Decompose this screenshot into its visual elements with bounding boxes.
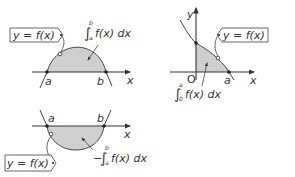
- shaded-area-origin: [196, 43, 229, 72]
- upper-limit: a: [179, 81, 183, 88]
- panel-negative-area: a b x y = f(x) − ∫ b a f(x) dx: [5, 110, 147, 171]
- leader-dot: [218, 34, 220, 36]
- leader-line: [215, 35, 218, 56]
- integrand: f(x) dx: [111, 152, 147, 165]
- lower-limit: a: [105, 159, 109, 166]
- point-y-intercept: [194, 41, 198, 45]
- upper-limit: b: [89, 19, 93, 26]
- x-axis-label: x: [249, 74, 257, 87]
- label-a: a: [45, 75, 52, 88]
- integrand: f(x) dx: [185, 88, 221, 101]
- curve-label: y = f(x): [6, 157, 49, 170]
- curve-point-marker: [58, 52, 62, 56]
- integrand: f(x) dx: [95, 27, 131, 40]
- curve-point-marker: [216, 56, 220, 60]
- origin-label: O: [187, 73, 196, 86]
- shaded-area-negative: [47, 126, 104, 150]
- point-b: [104, 70, 108, 74]
- curve-label: y = f(x): [12, 29, 55, 42]
- integral-label: ∫ b a f(x) dx: [84, 19, 131, 41]
- lower-limit: 0: [179, 95, 183, 102]
- label-a: a: [48, 112, 55, 125]
- label-b: b: [97, 75, 104, 88]
- x-axis-label: x: [123, 128, 131, 141]
- upper-limit: b: [105, 144, 109, 151]
- integral-label: ∫ a 0 f(x) dx: [174, 81, 221, 102]
- leader-dot: [52, 162, 54, 164]
- integral-area-diagram: a b x y = f(x) ∫ b a f(x) dx a b x y = f…: [0, 0, 295, 177]
- lower-limit: a: [89, 34, 93, 41]
- point-a: [45, 70, 49, 74]
- shaded-area-positive: [47, 47, 106, 72]
- panel-origin-area: y O a x y = f(x) ∫ a 0 f(x) dx: [170, 8, 268, 102]
- label-b: b: [97, 112, 104, 125]
- integral-label: − ∫ b a f(x) dx: [93, 144, 147, 166]
- panel-positive-area: a b x y = f(x) ∫ b a f(x) dx: [10, 19, 134, 88]
- y-axis-label: y: [186, 8, 194, 21]
- label-a: a: [224, 74, 231, 87]
- curve-label: y = f(x): [222, 29, 265, 42]
- curve-point-marker: [49, 132, 53, 136]
- x-axis-label: x: [126, 74, 134, 87]
